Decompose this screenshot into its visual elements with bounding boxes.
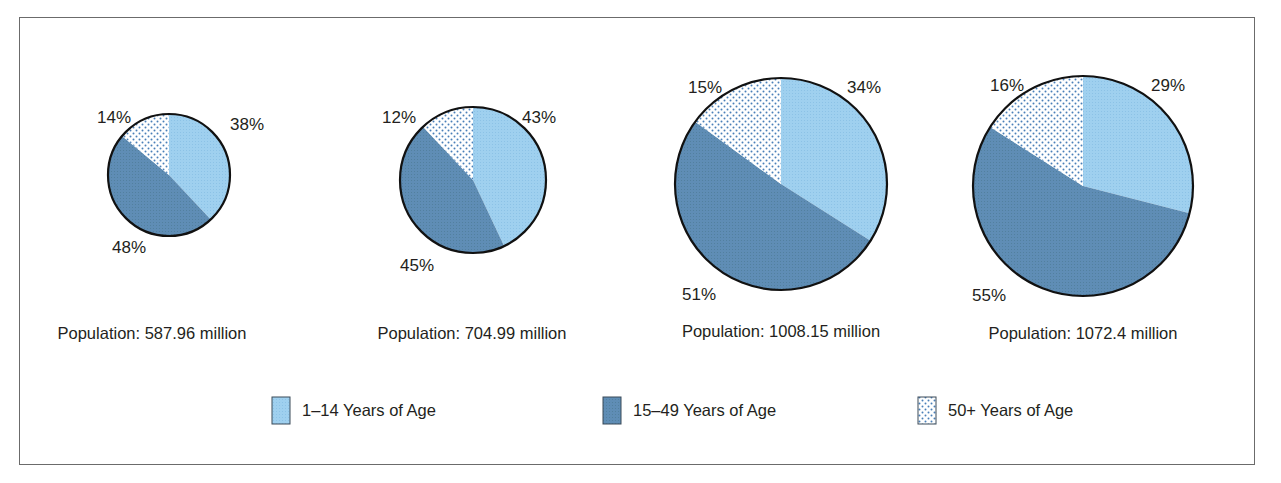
percent-label-1-14: 43% bbox=[522, 108, 556, 127]
legend-label-1-14: 1–14 Years of Age bbox=[302, 401, 436, 419]
pie-chart-figure: 38%48%14% 43%45%12% 34%51%15% 29%55%16% … bbox=[0, 0, 1281, 483]
population-label-4: Population: 1072.4 million bbox=[989, 324, 1178, 342]
legend: 1–14 Years of Age 15–49 Years of Age 50+… bbox=[272, 397, 1073, 424]
pie-3: 34%51%15% bbox=[675, 78, 887, 304]
percent-label-50-plus: 12% bbox=[382, 108, 416, 127]
percent-label-50-plus: 15% bbox=[688, 78, 722, 97]
legend-swatch-dark-blue bbox=[603, 397, 621, 424]
percent-label-15-49: 55% bbox=[972, 286, 1006, 305]
legend-swatch-light-blue bbox=[272, 397, 290, 424]
population-label-2: Population: 704.99 million bbox=[378, 324, 567, 342]
pie-1: 38%48%14% bbox=[97, 108, 264, 257]
percent-label-1-14: 34% bbox=[847, 78, 881, 97]
legend-item-50-plus: 50+ Years of Age bbox=[918, 397, 1073, 424]
percent-label-15-49: 48% bbox=[112, 238, 146, 257]
percent-label-50-plus: 16% bbox=[990, 76, 1024, 95]
pie-2: 43%45%12% bbox=[382, 107, 556, 275]
population-label-3: Population: 1008.15 million bbox=[682, 322, 880, 340]
percent-label-1-14: 29% bbox=[1151, 76, 1185, 95]
percent-label-1-14: 38% bbox=[230, 115, 264, 134]
percent-label-15-49: 51% bbox=[682, 285, 716, 304]
percent-label-50-plus: 14% bbox=[97, 108, 131, 127]
legend-item-15-49: 15–49 Years of Age bbox=[603, 397, 776, 424]
percent-label-15-49: 45% bbox=[400, 256, 434, 275]
population-label-1: Population: 587.96 million bbox=[58, 324, 247, 342]
legend-item-1-14: 1–14 Years of Age bbox=[272, 397, 436, 424]
pie-4: 29%55%16% bbox=[972, 76, 1193, 305]
legend-label-15-49: 15–49 Years of Age bbox=[633, 401, 776, 419]
legend-label-50-plus: 50+ Years of Age bbox=[948, 401, 1073, 419]
legend-swatch-dotted bbox=[918, 397, 936, 424]
